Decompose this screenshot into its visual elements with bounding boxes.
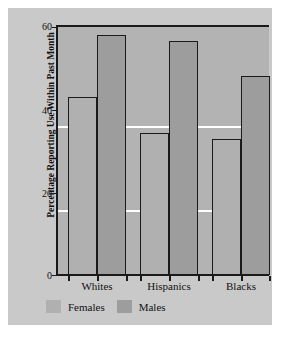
bar-hispanics-males	[169, 41, 198, 275]
y-tick-label-60: 60	[42, 21, 52, 32]
chart-legend: Females Males	[46, 300, 166, 313]
bar-blacks-females	[212, 139, 241, 275]
plot-area: 60 40 20 0 Whites Hispanics	[56, 25, 269, 276]
y-axis-title: Percentage Reporting Use Within Past Mon…	[46, 10, 56, 240]
x-tick-6	[212, 276, 214, 281]
chart-figure: Percentage Reporting Use Within Past Mon…	[0, 0, 286, 338]
legend-swatch-females-icon	[46, 300, 61, 313]
x-tick-3	[140, 276, 142, 281]
category-label-whites: Whites	[81, 280, 112, 292]
axis-top	[56, 25, 269, 27]
x-tick-8	[269, 276, 271, 281]
legend-entry-males: Males	[117, 300, 166, 313]
x-tick-2	[126, 276, 128, 281]
legend-swatch-males-icon	[117, 300, 132, 313]
y-tick-mark-0	[52, 275, 56, 276]
chart-panel: Percentage Reporting Use Within Past Mon…	[8, 8, 272, 325]
legend-label-females: Females	[68, 301, 105, 313]
x-tick-5	[198, 276, 200, 281]
y-tick-mark-20	[52, 193, 56, 194]
bar-blacks-males	[241, 76, 270, 275]
x-tick-0	[68, 276, 70, 281]
bar-whites-females	[68, 97, 97, 275]
category-label-hispanics: Hispanics	[147, 280, 190, 292]
bar-whites-males	[97, 35, 126, 275]
y-tick-label-40: 40	[42, 105, 52, 116]
legend-label-males: Males	[139, 301, 166, 313]
axis-left	[56, 25, 58, 276]
y-tick-label-20: 20	[42, 188, 52, 199]
bar-hispanics-females	[140, 133, 169, 275]
legend-entry-females: Females	[46, 300, 105, 313]
y-tick-mark-60	[52, 27, 56, 28]
y-tick-mark-40	[52, 110, 56, 111]
category-label-blacks: Blacks	[226, 280, 256, 292]
